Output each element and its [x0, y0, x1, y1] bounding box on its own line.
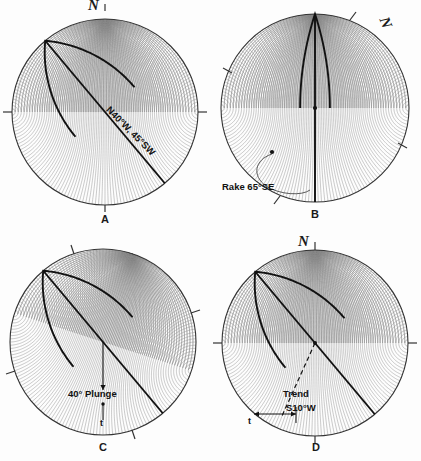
plunge-label-c: 40° Plunge [68, 388, 117, 399]
stereonet-net-a [0, 0, 210, 230]
stereonet-net-d [210, 231, 420, 461]
rake-dot-b [270, 150, 274, 154]
trend-tick-label-d: t [248, 416, 251, 426]
center-dot-d [313, 341, 317, 345]
stereonet-svg-d [210, 231, 420, 461]
rake-label-b: Rake 65°SE [222, 181, 274, 192]
panel-letter-b: B [300, 208, 330, 220]
stereonet-svg-b [210, 0, 420, 230]
stereonet-panel-c: 40° Plunge t C [0, 230, 210, 460]
center-dot-b [313, 106, 317, 110]
stereonet-net-b [210, 0, 420, 230]
bearing-label-d: S10°W [286, 402, 316, 413]
stereonet-panel-a: N N40°W, 45°SW A [0, 0, 210, 230]
trend-point-c [101, 402, 104, 405]
north-label-d: N [298, 233, 309, 250]
trend-label-d: Trend [283, 388, 309, 399]
panel-letter-d: D [301, 441, 331, 453]
north-label-a: N [88, 0, 99, 14]
stereonet-panel-d: N Trend S10°W t D [210, 231, 420, 461]
panel-letter-c: C [88, 441, 118, 453]
stereonet-svg-a [0, 0, 210, 230]
panel-letter-a: A [90, 213, 120, 225]
stereonet-net-c [0, 230, 210, 460]
stereonet-panel-b: N Rake 65°SE B [210, 0, 420, 230]
trend-tick-label-c: t [100, 418, 103, 428]
stereonet-svg-c [0, 230, 210, 461]
